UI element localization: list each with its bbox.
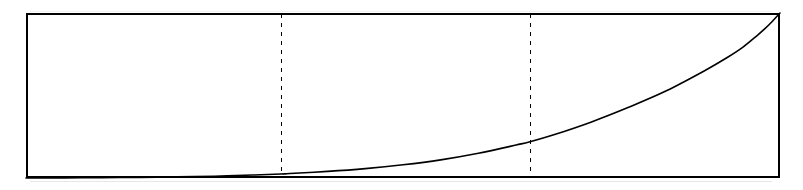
figure-container	[0, 0, 803, 190]
plot-background	[0, 0, 803, 190]
plot-svg	[0, 0, 803, 190]
